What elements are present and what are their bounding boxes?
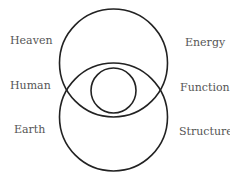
label-energy: Energy: [185, 37, 225, 49]
venn-diagram: Heaven Human Earth Energy Function Struc…: [0, 0, 230, 184]
label-function: Function: [180, 82, 230, 94]
label-heaven: Heaven: [10, 35, 52, 47]
inner-circle: [91, 68, 136, 113]
label-human: Human: [10, 80, 51, 92]
label-structure: Structure: [179, 126, 230, 138]
label-earth: Earth: [14, 124, 45, 136]
